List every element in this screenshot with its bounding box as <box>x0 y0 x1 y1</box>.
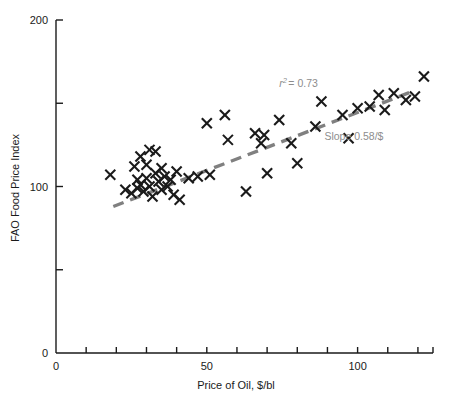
slope-annotation: Slope 0.58/$ <box>324 130 383 142</box>
data-point <box>262 168 272 178</box>
x-tick-label: 100 <box>348 360 366 372</box>
r-squared-annotation: r2= 0.73 <box>279 76 318 89</box>
data-point <box>419 72 429 82</box>
data-point <box>135 152 145 162</box>
data-point <box>141 160 151 170</box>
data-point <box>105 170 115 180</box>
data-point <box>129 162 139 172</box>
scatter-chart: 050100 0100200 Price of Oil, $/bl FAO Fo… <box>0 0 464 398</box>
x-tick-label: 0 <box>53 360 59 372</box>
plot-area: 050100 0100200 Price of Oil, $/bl FAO Fo… <box>0 0 464 398</box>
data-point <box>202 118 212 128</box>
data-point <box>157 163 167 173</box>
data-point <box>250 128 260 138</box>
y-tick-label: 200 <box>30 14 48 26</box>
data-point <box>389 88 399 98</box>
data-point <box>241 186 251 196</box>
data-point <box>205 170 215 180</box>
x-axis-tick-labels: 050100 <box>53 360 367 372</box>
data-point <box>144 182 154 192</box>
r-squared-value: = 0.73 <box>288 77 318 89</box>
axes-group <box>56 20 433 353</box>
r-squared-exponent: 2 <box>282 76 288 85</box>
y-axis-title: FAO Food Price Index <box>9 133 21 242</box>
data-point <box>380 105 390 115</box>
data-point <box>259 130 269 140</box>
y-axis-ticks <box>56 20 63 270</box>
data-point <box>220 110 230 120</box>
y-axis-tick-labels: 0100200 <box>30 14 48 359</box>
y-tick-label: 100 <box>30 181 48 193</box>
data-point <box>172 167 182 177</box>
x-axis-ticks <box>86 347 433 353</box>
data-point <box>141 173 151 183</box>
data-point <box>274 115 284 125</box>
y-tick-label: 0 <box>42 347 48 359</box>
data-point <box>338 110 348 120</box>
data-point <box>223 135 233 145</box>
data-point <box>374 90 384 100</box>
data-point <box>410 92 420 102</box>
data-point <box>292 158 302 168</box>
data-point <box>256 138 266 148</box>
data-point <box>175 195 185 205</box>
data-point <box>401 95 411 105</box>
x-tick-label: 50 <box>201 360 213 372</box>
data-point <box>316 97 326 107</box>
x-axis-title: Price of Oil, $/bl <box>197 379 275 391</box>
